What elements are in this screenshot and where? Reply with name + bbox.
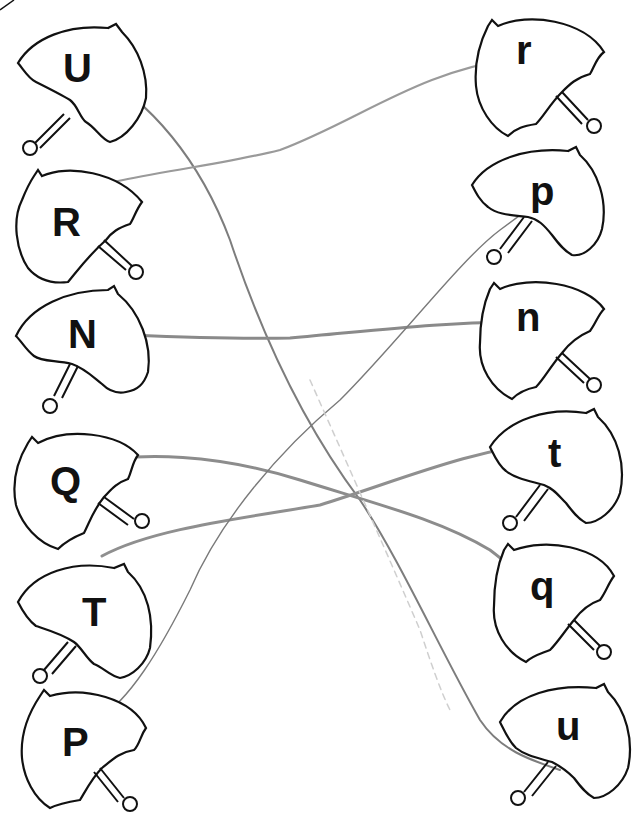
letter-label: t <box>548 433 561 473</box>
umbrella-left-T[interactable]: T <box>14 558 164 688</box>
umbrella-right-t[interactable]: t <box>486 405 634 535</box>
umbrella-icon <box>490 538 634 668</box>
letter-label: p <box>530 171 554 211</box>
umbrella-right-p[interactable]: p <box>468 145 618 275</box>
umbrella-left-R[interactable]: R <box>8 160 158 290</box>
umbrella-left-P[interactable]: P <box>14 688 164 817</box>
umbrella-right-q[interactable]: q <box>490 538 634 668</box>
letter-label: U <box>63 48 92 88</box>
erased-line <box>310 380 450 710</box>
umbrella-left-U[interactable]: U <box>8 18 158 148</box>
umbrella-right-r[interactable]: r <box>464 12 614 142</box>
letter-label: R <box>52 202 81 242</box>
letter-label: Q <box>50 461 81 501</box>
letter-label: P <box>62 722 89 762</box>
umbrella-icon <box>476 275 626 405</box>
letter-label: T <box>82 592 106 632</box>
letter-label: n <box>516 297 540 337</box>
umbrella-left-N[interactable]: N <box>8 284 158 414</box>
umbrella-right-u[interactable]: u <box>496 680 634 810</box>
umbrella-icon <box>8 425 158 555</box>
corner-mark <box>0 0 20 12</box>
umbrella-right-n[interactable]: n <box>476 275 626 405</box>
matching-worksheet: U R N Q T <box>0 0 634 817</box>
letter-label: N <box>68 314 97 354</box>
umbrella-left-Q[interactable]: Q <box>8 425 158 555</box>
umbrella-icon <box>464 12 614 142</box>
line-T-t <box>102 442 548 556</box>
letter-label: q <box>530 566 554 606</box>
umbrella-icon <box>14 688 164 817</box>
letter-label: u <box>556 706 580 746</box>
letter-label: r <box>516 30 532 70</box>
umbrella-icon <box>8 160 158 290</box>
